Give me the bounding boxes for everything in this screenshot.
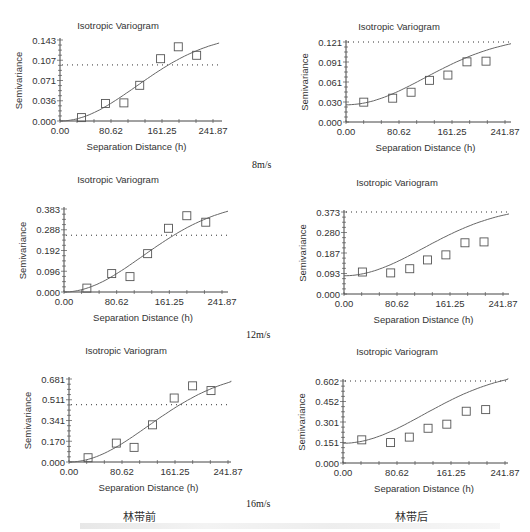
chart-title: Isotropic Variogram xyxy=(358,21,440,32)
y-tick-label: 0.030 xyxy=(318,97,342,108)
variogram-chart-4: Isotropic Variogram0.0000.0930.1870.2800… xyxy=(297,177,518,325)
data-point xyxy=(183,212,191,220)
y-tick-label: 0.187 xyxy=(316,248,340,259)
variogram-chart-5: Isotropic Variogram0.0000.1700.3410.5110… xyxy=(22,345,243,493)
data-point xyxy=(157,55,165,63)
model-curve xyxy=(343,379,508,444)
x-axis-label: Separation Distance (h) xyxy=(93,312,193,323)
x-tick-label: 241.87 xyxy=(490,467,519,478)
model-curve xyxy=(64,211,228,292)
data-point xyxy=(425,76,433,84)
data-point xyxy=(120,99,128,107)
data-point xyxy=(170,394,178,402)
chart-title: Isotropic Variogram xyxy=(85,345,167,356)
y-tick-label: 0.341 xyxy=(41,415,65,426)
variogram-figure: Isotropic Variogram0.0000.0360.0710.1070… xyxy=(0,0,530,532)
y-tick-label: 0.107 xyxy=(32,55,56,66)
x-tick-label: 80.62 xyxy=(105,296,129,307)
data-point xyxy=(189,382,197,390)
data-point xyxy=(126,273,134,281)
data-point xyxy=(424,424,432,432)
y-tick-label: 0.681 xyxy=(41,374,65,385)
y-axis-label: Semivariance xyxy=(297,224,308,282)
chart-title: Isotropic Variogram xyxy=(77,174,159,185)
x-axis-label: Separation Distance (h) xyxy=(99,482,199,493)
x-tick-label: 161.25 xyxy=(155,296,184,307)
data-point xyxy=(202,218,210,226)
data-point xyxy=(358,436,366,444)
x-tick-label: 161.25 xyxy=(435,298,464,309)
data-point xyxy=(461,239,469,247)
x-tick-label: 0.00 xyxy=(55,296,74,307)
x-tick-label: 0.00 xyxy=(337,126,356,137)
x-tick-label: 0.00 xyxy=(334,467,353,478)
x-tick-label: 80.62 xyxy=(385,298,409,309)
y-tick-label: 0.071 xyxy=(32,75,56,86)
variogram-chart-2: Isotropic Variogram0.0000.0300.0610.0910… xyxy=(299,21,520,153)
variogram-chart-6: Isotropic Variogram0.0000.1510.3010.4520… xyxy=(296,346,520,494)
y-tick-label: 0.602 xyxy=(315,376,339,387)
data-point xyxy=(174,43,182,51)
x-tick-label: 0.00 xyxy=(335,298,354,309)
x-tick-label: 80.62 xyxy=(99,125,123,136)
y-tick-label: 0.121 xyxy=(318,37,342,48)
data-point xyxy=(407,88,415,96)
model-curve xyxy=(344,214,509,276)
data-point xyxy=(193,51,201,59)
data-point xyxy=(423,256,431,264)
y-tick-label: 0.151 xyxy=(315,437,339,448)
data-point xyxy=(387,269,395,277)
y-tick-label: 0.143 xyxy=(32,35,56,46)
data-point xyxy=(462,407,470,415)
y-tick-label: 0.093 xyxy=(316,268,340,279)
variogram-chart-1: Isotropic Variogram0.0000.0360.0710.1070… xyxy=(13,20,228,152)
y-tick-label: 0.373 xyxy=(316,207,340,218)
y-tick-label: 0.288 xyxy=(36,224,60,235)
data-point xyxy=(482,406,490,414)
x-tick-label: 241.87 xyxy=(488,298,517,309)
y-axis-label: Semivariance xyxy=(296,393,307,451)
x-tick-label: 80.62 xyxy=(385,467,409,478)
data-point xyxy=(406,265,414,273)
data-point xyxy=(442,251,450,259)
x-tick-label: 161.25 xyxy=(436,467,465,478)
data-point xyxy=(387,439,395,447)
x-tick-label: 0.00 xyxy=(60,466,79,477)
x-tick-label: 241.87 xyxy=(198,125,227,136)
y-tick-label: 0.096 xyxy=(36,266,60,277)
data-point xyxy=(130,443,138,451)
data-point xyxy=(443,420,451,428)
figure-caption-cropped xyxy=(80,523,500,529)
x-tick-label: 80.62 xyxy=(110,466,134,477)
x-tick-label: 80.62 xyxy=(387,126,411,137)
data-point xyxy=(480,238,488,246)
x-axis-label: Separation Distance (h) xyxy=(374,314,474,325)
data-point xyxy=(482,57,490,65)
x-axis-label: Separation Distance (h) xyxy=(87,141,187,152)
chart-title: Isotropic Variogram xyxy=(77,20,159,31)
y-tick-label: 0.170 xyxy=(41,436,65,447)
chart-title: Isotropic Variogram xyxy=(356,177,438,188)
y-tick-label: 0.061 xyxy=(318,77,342,88)
data-point xyxy=(165,224,173,232)
model-curve xyxy=(60,43,219,121)
x-tick-label: 161.25 xyxy=(147,125,176,136)
x-axis-label: Separation Distance (h) xyxy=(374,483,474,494)
x-tick-label: 241.87 xyxy=(213,466,242,477)
y-tick-label: 0.036 xyxy=(32,95,56,106)
y-axis-label: Semivariance xyxy=(13,52,24,110)
x-tick-label: 241.87 xyxy=(490,126,519,137)
y-axis-label: Semivariance xyxy=(299,53,310,111)
chart-title: Isotropic Variogram xyxy=(356,346,438,357)
y-tick-label: 0.452 xyxy=(315,396,339,407)
data-point xyxy=(405,433,413,441)
x-tick-label: 161.25 xyxy=(437,126,466,137)
y-tick-label: 0.280 xyxy=(316,227,340,238)
y-tick-label: 0.192 xyxy=(36,245,60,256)
data-point xyxy=(444,71,452,79)
y-tick-label: 0.091 xyxy=(318,57,342,68)
y-tick-label: 0.383 xyxy=(36,204,60,215)
x-axis-label: Separation Distance (h) xyxy=(376,142,476,153)
x-tick-label: 161.25 xyxy=(160,466,189,477)
x-tick-label: 241.87 xyxy=(207,296,236,307)
